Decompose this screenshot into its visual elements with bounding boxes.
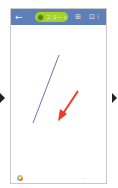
top-toolbar: ← スタート ⊞ ⊡ ⁝: [11, 9, 106, 25]
bottom-status-text: —: [83, 176, 87, 181]
back-arrow-icon[interactable]: ←: [15, 12, 23, 22]
drawing-canvas[interactable]: [11, 25, 106, 175]
color-palette-icon[interactable]: [17, 175, 23, 181]
bottom-toolbar: —: [11, 175, 106, 184]
grid-icon[interactable]: ⊞: [75, 13, 81, 21]
start-pill-button[interactable]: スタート: [35, 12, 68, 22]
phone-frame: ← スタート ⊞ ⊡ ⁝ —: [10, 8, 107, 184]
next-arrow-icon[interactable]: [112, 93, 117, 103]
drawn-blue-line: [33, 55, 59, 123]
pill-label: スタート: [46, 14, 68, 20]
record-dot-icon: [37, 14, 44, 21]
drawing-svg: [11, 25, 106, 175]
red-arrow-icon: [58, 91, 78, 121]
previous-arrow-icon[interactable]: [0, 93, 5, 103]
more-options-icon[interactable]: ⊡ ⁝: [89, 13, 99, 21]
screen: ← スタート ⊞ ⊡ ⁝ —: [0, 0, 118, 188]
